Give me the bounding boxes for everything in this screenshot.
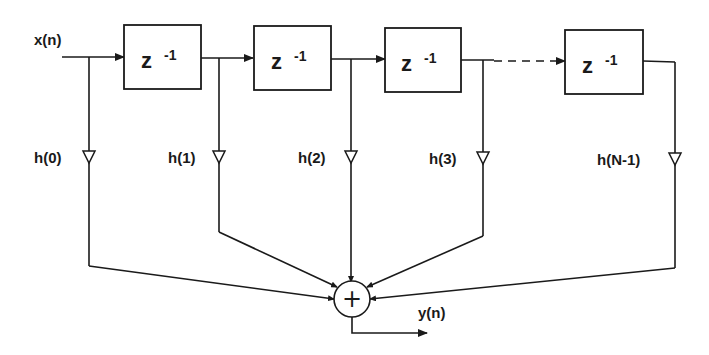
plus-icon: + — [342, 285, 362, 313]
tap-label: h(1) — [168, 149, 196, 166]
tap-label: h(N-1) — [597, 151, 640, 168]
delay-label: z — [401, 51, 412, 76]
fir-filter-diagram: x(n) z -1 z -1 z -1 z -1 h(0) h(1) h( — [0, 0, 709, 355]
delay-exponent: -1 — [424, 50, 437, 66]
sum-line-n-minus-1 — [370, 268, 675, 299]
delay-block-4: z -1 — [565, 30, 643, 94]
delay-block-1: z -1 — [124, 25, 201, 89]
delay-exponent: -1 — [164, 47, 177, 63]
output-line — [352, 317, 427, 333]
tap-label: h(0) — [34, 149, 62, 166]
delay-block-2: z -1 — [254, 26, 331, 90]
sum-line-3 — [367, 236, 483, 287]
tap-label: h(2) — [298, 149, 326, 166]
gain-triangle-icon — [83, 151, 95, 163]
sum-line-1 — [219, 232, 337, 287]
sum-line-0 — [89, 266, 334, 299]
delay-exponent: -1 — [605, 52, 618, 68]
gain-triangle-icon — [213, 151, 225, 163]
delay-block-3: z -1 — [385, 28, 461, 92]
tap-0: h(0) — [34, 57, 95, 266]
delay-label: z — [141, 48, 152, 73]
gain-triangle-icon — [669, 153, 681, 165]
signal-line-end — [643, 61, 675, 62]
input-label: x(n) — [34, 31, 62, 48]
delay-label: z — [582, 53, 593, 78]
gain-triangle-icon — [477, 152, 489, 164]
adder: + — [334, 281, 370, 317]
tap-2: h(2) — [298, 59, 357, 282]
gain-triangle-icon — [345, 151, 357, 163]
delay-exponent: -1 — [294, 48, 307, 64]
output-label: y(n) — [418, 304, 446, 321]
delay-label: z — [271, 49, 282, 74]
tap-label: h(3) — [429, 150, 457, 167]
